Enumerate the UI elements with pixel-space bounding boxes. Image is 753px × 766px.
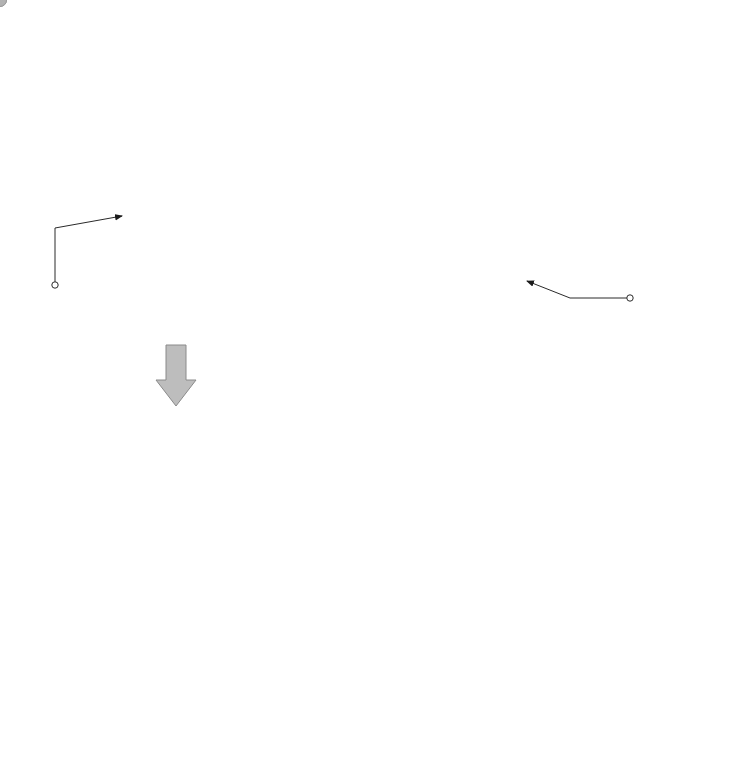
mapping-arrow-icon bbox=[156, 345, 196, 406]
figure-canvas bbox=[0, 0, 753, 766]
surface-point-marker bbox=[0, 0, 7, 7]
output-surface-plot bbox=[0, 0, 7, 7]
x2-callout-leader bbox=[55, 216, 122, 283]
x1-callout-endpoint-icon bbox=[627, 295, 633, 301]
x2-callout-endpoint-icon bbox=[52, 282, 58, 288]
input-domain-plane bbox=[0, 0, 633, 301]
x1-callout-leader bbox=[527, 281, 627, 298]
